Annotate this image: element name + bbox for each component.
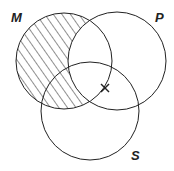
label-s: S xyxy=(131,148,140,163)
shaded-region xyxy=(0,0,174,171)
label-m: M xyxy=(11,10,23,25)
venn-svg: M P S xyxy=(0,0,174,171)
label-p: P xyxy=(155,10,164,25)
venn-diagram: M P S xyxy=(0,0,174,171)
